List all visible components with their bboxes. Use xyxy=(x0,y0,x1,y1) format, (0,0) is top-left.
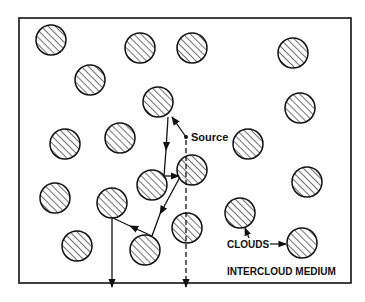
cloud-20 xyxy=(287,228,317,258)
source-label: Source xyxy=(191,131,228,143)
cloud-7 xyxy=(285,93,315,123)
cloud-8 xyxy=(50,129,80,159)
cloud-4 xyxy=(278,38,308,68)
cloud-19 xyxy=(130,235,160,265)
cloud-12 xyxy=(177,155,207,185)
cloud-9 xyxy=(105,123,135,153)
cloud-16 xyxy=(225,198,255,228)
clouds-label: CLOUDS xyxy=(227,239,270,250)
cloud-11 xyxy=(137,170,167,200)
cloud-5 xyxy=(75,65,105,95)
cloud-1 xyxy=(36,25,66,55)
cloud-18 xyxy=(62,231,92,261)
cloud-13 xyxy=(292,167,322,197)
cloud-10 xyxy=(233,129,263,159)
source-point xyxy=(184,135,188,139)
cloud-2 xyxy=(125,33,155,63)
cloud-17 xyxy=(172,213,202,243)
cloud-15 xyxy=(97,188,127,218)
cloud-6 xyxy=(143,87,173,117)
cloud-3 xyxy=(177,33,207,63)
cloud-14 xyxy=(40,183,70,213)
intercloud-diagram: Source CLOUDS INTERCLOUD MEDIUM xyxy=(0,0,365,302)
intercloud-medium-label: INTERCLOUD MEDIUM xyxy=(227,266,336,277)
